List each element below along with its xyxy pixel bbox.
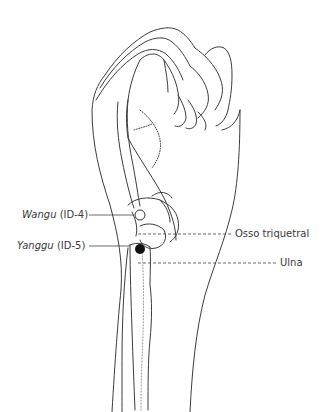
forearm-outline-right (190, 110, 240, 412)
yanggu-code: (ID-5) (57, 240, 85, 251)
hand-wrist-illustration (0, 0, 328, 412)
wangu-point-marker (135, 210, 145, 220)
yanggu-point-marker (135, 244, 145, 254)
yanggu-name: Yanggu (17, 240, 54, 251)
triquetral-label: Osso triquetral (235, 228, 309, 240)
wangu-name: Wangu (22, 209, 57, 220)
wangu-label: Wangu (ID-4) (22, 209, 88, 221)
yanggu-label: Yanggu (ID-5) (17, 240, 85, 252)
ulna-label: Ulna (280, 257, 303, 269)
wangu-code: (ID-4) (60, 209, 88, 220)
